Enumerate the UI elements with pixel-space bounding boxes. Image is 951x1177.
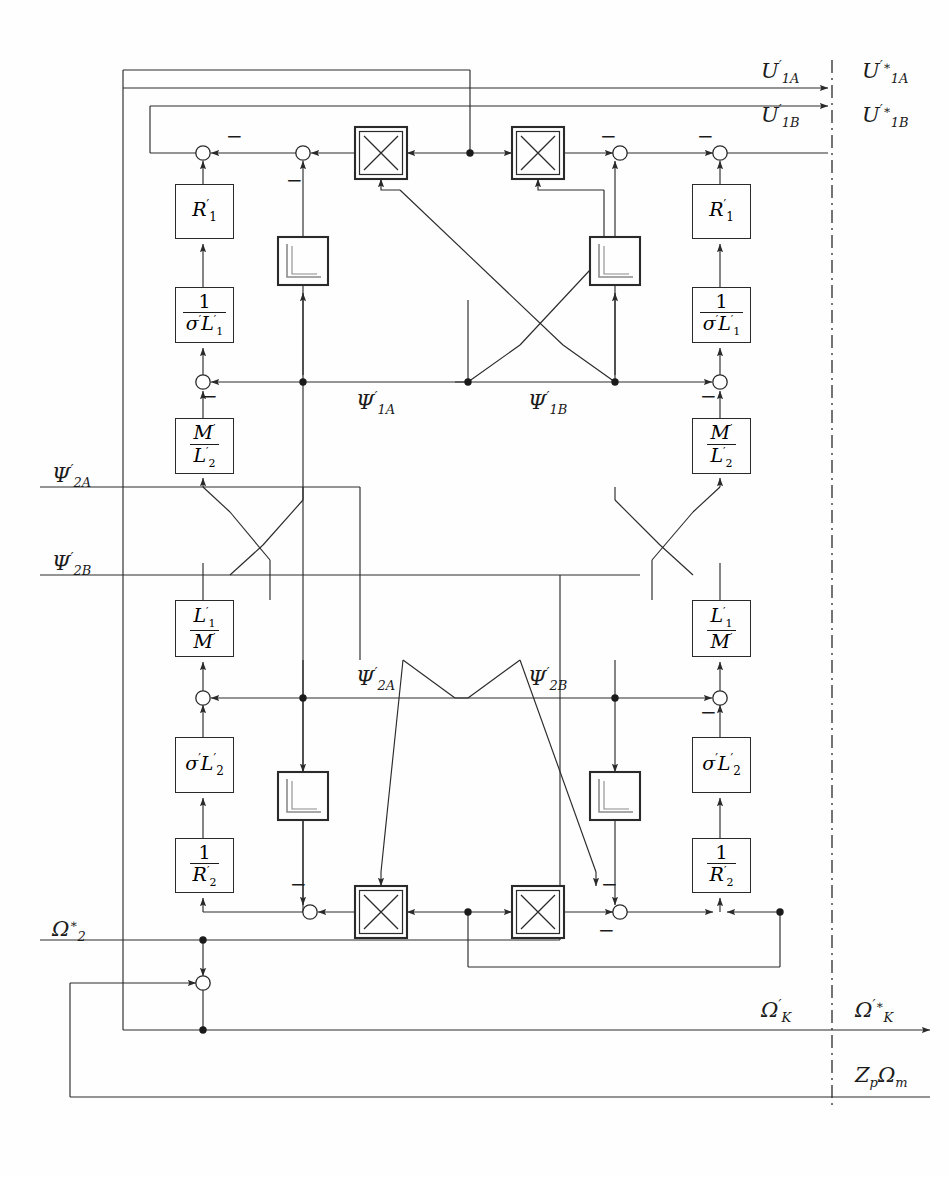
gain-label: L′1 M′ [190, 606, 218, 651]
minus-sign-10: − [598, 918, 615, 942]
label-u1b-out: U'*1B U′∗1B [862, 102, 909, 130]
gain-block-sigmaL1-left[interactable]: 1 σ′L′1 [175, 287, 234, 343]
gain-label: L′1 M′ [707, 606, 735, 651]
gain-block-L1-over-M-left[interactable]: L′1 M′ [175, 600, 234, 657]
gain-label: R′1 [192, 199, 217, 223]
junction-dot-icon [299, 378, 306, 385]
label-psi2b-left: Ψ'2B Ψ′2B [52, 550, 91, 578]
junction-dot-icon [776, 908, 783, 915]
integrator-step-icon[interactable] [590, 237, 640, 285]
wire-xr-2b [615, 500, 660, 545]
wire-psi2a-diag [468, 660, 520, 698]
junction-dot-icon [464, 908, 471, 915]
gain-block-sigmaL1-right[interactable]: 1 σ′L′1 [692, 287, 751, 343]
junction-dot-icon [611, 378, 618, 385]
signal-flow-svg [0, 0, 951, 1177]
label-omegak-in: Ω'K Ω′K [761, 997, 791, 1025]
minus-sign-8: − [290, 872, 307, 896]
minus-sign-5: − [201, 384, 218, 408]
junction-dot-icon [464, 378, 471, 385]
gain-block-R1-right[interactable]: R′1 [692, 184, 751, 239]
label-psi2a-left: Ψ'2A Ψ′2A [52, 462, 91, 490]
label-psi1a: Ψ'1A Ψ′1A [356, 389, 395, 417]
minus-sign-7: − [700, 700, 717, 724]
gain-block-1-over-R2-right[interactable]: 1 R′2 [692, 838, 751, 893]
sum-node-layer [196, 146, 727, 990]
diagram-canvas: R′1 1 σ′L′1 M′ L′2 L′1 M′ σ′L′2 1 R′2 R′… [0, 0, 951, 1177]
wire-xl-1b [230, 512, 270, 560]
integrator-step-icon[interactable] [590, 772, 640, 820]
wire-xl-2c [230, 545, 263, 575]
wire-to-multtr-in [538, 179, 604, 190]
label-omega2: Ω*2 Ω∗2 [52, 916, 86, 944]
label-psi2a-mid: Ψ'2A Ψ′2A [356, 665, 395, 693]
gain-label: 1 R′2 [707, 843, 737, 888]
summing-junction-icon [303, 905, 317, 919]
multiplier-x-icon[interactable] [355, 886, 407, 938]
wire-xl-2b [263, 500, 303, 545]
wire-psi1b-diag2 [400, 190, 563, 345]
wire-xr-2c [660, 545, 693, 575]
junction-dot-icon [299, 694, 306, 701]
wire-xr-1a [693, 487, 720, 512]
minus-sign-2: − [286, 168, 303, 192]
integrator-step-icon[interactable] [278, 772, 328, 820]
label-zp-omega-m: ZpΩm ZpΩm [855, 1063, 908, 1090]
multiplier-x-icon[interactable] [355, 127, 407, 179]
wire-psi2b-diag [403, 660, 455, 698]
gain-label: 1 R′2 [190, 843, 220, 888]
minus-sign-1: − [226, 124, 243, 148]
label-psi1b: Ψ'1B Ψ′1B [528, 389, 567, 417]
junction-dot-icon [199, 1026, 206, 1033]
gain-label: 1 σ′L′1 [183, 292, 227, 337]
summing-junction-icon [713, 146, 727, 160]
gain-block-M-over-L2-left[interactable]: M′ L′2 [175, 418, 234, 474]
gain-label: σ′L′2 [702, 753, 741, 777]
gain-label: R′1 [709, 199, 734, 223]
gain-block-R1-left[interactable]: R′1 [175, 184, 234, 239]
minus-sign-4: − [697, 124, 714, 148]
multiplier-x-icon[interactable] [512, 886, 564, 938]
gain-label: σ′L′2 [185, 753, 224, 777]
summing-junction-icon [296, 146, 310, 160]
summing-junction-icon [196, 691, 210, 705]
wire-xr-1b [652, 512, 693, 560]
summing-junction-icon [196, 976, 210, 990]
label-psi2b-mid: Ψ'2B Ψ′2B [528, 665, 567, 693]
label-u1b-in: U'1B U′1B [761, 102, 799, 130]
label-u1a-out: U'*1A U′∗1A [862, 58, 908, 86]
gain-block-M-over-L2-right[interactable]: M′ L′2 [692, 418, 751, 474]
minus-sign-9: − [601, 872, 618, 896]
junction-dot-icon [611, 694, 618, 701]
label-omegak-out: Ω'*K Ω′∗K [855, 997, 893, 1025]
gain-label: M′ L′2 [707, 423, 735, 468]
wire-layer [40, 70, 930, 1097]
minus-sign-6: − [700, 384, 717, 408]
multiplier-x-icon[interactable] [512, 127, 564, 179]
junction-dot-icon [466, 149, 473, 156]
gain-block-L1-over-M-right[interactable]: L′1 M′ [692, 600, 751, 657]
junction-dot-icon [199, 936, 206, 943]
label-u1a-in: U'1A U′1A [761, 58, 799, 86]
gain-block-sigmaL2-left[interactable]: σ′L′2 [175, 737, 234, 793]
gain-block-1-over-R2-left[interactable]: 1 R′2 [175, 838, 234, 893]
gain-label: M′ L′2 [190, 423, 218, 468]
gain-label: 1 σ′L′1 [700, 292, 744, 337]
wire-to-multtl-in [381, 179, 400, 190]
wire-psi1b-diag [563, 345, 615, 382]
wire-xl-1a [203, 487, 230, 512]
integrator-step-icon[interactable] [278, 237, 328, 285]
summing-junction-icon [196, 146, 210, 160]
integrator-layer [278, 237, 640, 820]
minus-sign-3: − [600, 124, 617, 148]
summing-junction-icon [613, 905, 627, 919]
gain-block-sigmaL2-right[interactable]: σ′L′2 [692, 737, 751, 793]
wire-psi1a-diag [468, 345, 520, 382]
